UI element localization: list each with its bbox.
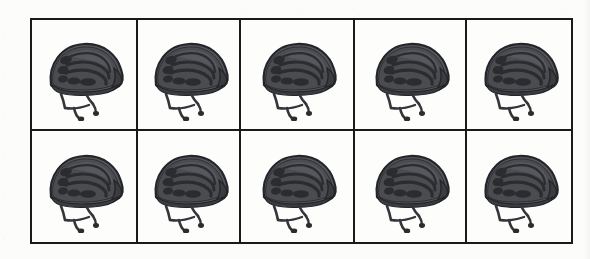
helmet-slot: [467, 20, 571, 129]
bicycle-helmet-icon: [146, 29, 232, 121]
helmet-slot: [32, 131, 136, 242]
helmet-slot: [138, 20, 239, 129]
helmet-slot: [138, 131, 239, 242]
bicycle-helmet-icon: [254, 141, 340, 233]
grid-cell-r1c2[interactable]: [138, 20, 241, 131]
grid-cell-r2c4[interactable]: [355, 131, 467, 242]
grid-cell-r1c1[interactable]: [32, 20, 138, 131]
grid-cell-r2c2[interactable]: [138, 131, 241, 242]
grid-cell-r1c4[interactable]: [355, 20, 467, 131]
bicycle-helmet-icon: [476, 29, 562, 121]
helmet-slot: [241, 20, 353, 129]
helmet-array-grid: [30, 18, 573, 244]
bicycle-helmet-icon: [146, 141, 232, 233]
grid-cell-r1c3[interactable]: [241, 20, 355, 131]
bicycle-helmet-icon: [41, 29, 127, 121]
grid-cell-r2c3[interactable]: [241, 131, 355, 242]
grid-cell-r2c1[interactable]: [32, 131, 138, 242]
bicycle-helmet-icon: [367, 29, 453, 121]
grid-cell-r1c5[interactable]: [467, 20, 571, 131]
bicycle-helmet-icon: [367, 141, 453, 233]
bicycle-helmet-icon: [41, 141, 127, 233]
helmet-slot: [467, 131, 571, 242]
bicycle-helmet-icon: [476, 141, 562, 233]
helmet-slot: [241, 131, 353, 242]
bicycle-helmet-icon: [254, 29, 340, 121]
grid-cell-r2c5[interactable]: [467, 131, 571, 242]
worksheet-page: [0, 0, 590, 259]
scan-edge-shadow: [584, 0, 590, 259]
helmet-slot: [355, 20, 465, 129]
helmet-slot: [355, 131, 465, 242]
helmet-slot: [32, 20, 136, 129]
